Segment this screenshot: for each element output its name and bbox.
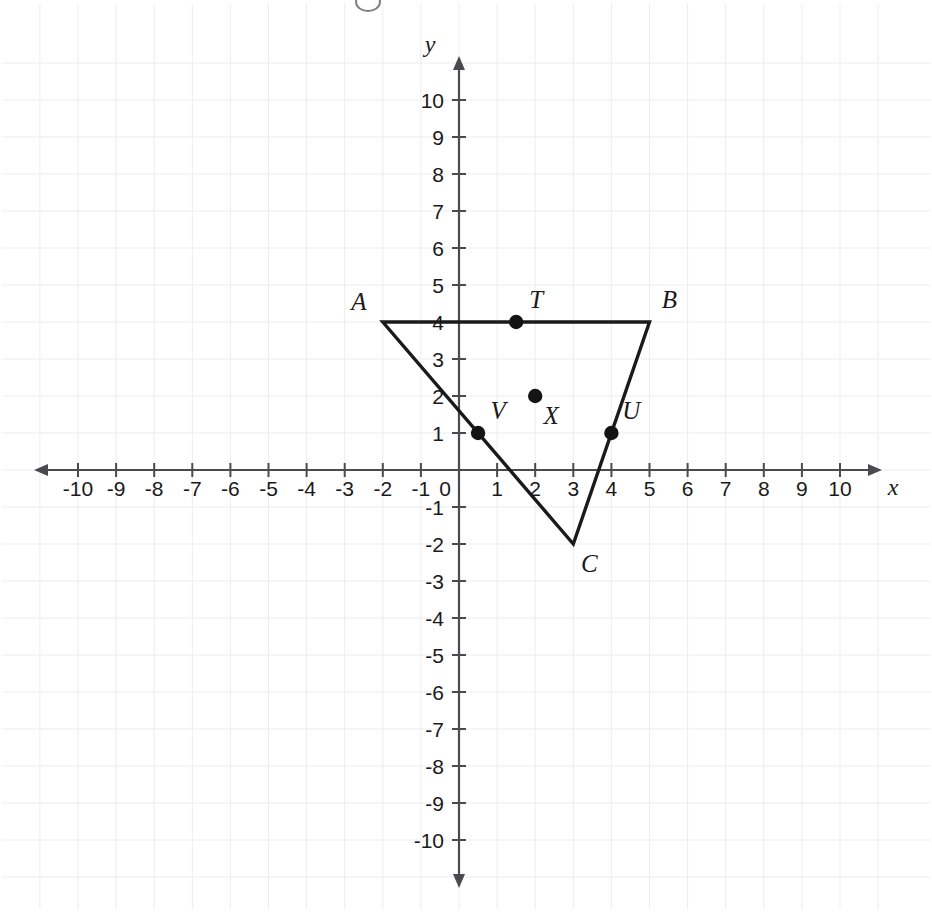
x-axis-tick-label: 7 (720, 477, 732, 500)
grid-lines (2, 4, 930, 909)
y-axis-tick-label: 3 (432, 348, 444, 371)
vertex-label-c: C (581, 550, 598, 577)
y-axis-tick-label: 8 (432, 163, 444, 186)
y-axis-down-arrow-icon (453, 874, 465, 888)
point-label-x: X (543, 402, 561, 429)
coordinate-plane-figure: -10-9-8-7-6-5-4-3-2-10123456789101234567… (0, 0, 932, 913)
y-axis-tick-label: -3 (425, 570, 444, 593)
x-axis-tick-label: 6 (682, 477, 694, 500)
x-axis-tick-label: 8 (758, 477, 770, 500)
x-axis-tick-label: 9 (796, 477, 808, 500)
y-axis-tick-label: 10 (421, 89, 444, 112)
x-axis-tick-label: -10 (63, 477, 93, 500)
y-axis-tick-label: 1 (432, 422, 444, 445)
point-label-v: V (490, 397, 508, 424)
y-axis-tick-label: -1 (425, 496, 444, 519)
y-axis-tick-label: -4 (425, 607, 444, 630)
x-axis-tick-label: 3 (567, 477, 579, 500)
y-axis-tick-label: -6 (425, 681, 444, 704)
x-axis-tick-label: -7 (183, 477, 202, 500)
y-axis-tick-label: 5 (432, 274, 444, 297)
point-label-u: U (622, 397, 642, 424)
vertex-label-a: A (349, 288, 367, 315)
coordinate-plane-canvas: -10-9-8-7-6-5-4-3-2-10123456789101234567… (0, 0, 932, 913)
plotted-labels: ABCTXVU (349, 286, 677, 577)
y-axis-tick-label: 7 (432, 200, 444, 223)
y-axis-tick-label: -5 (425, 644, 444, 667)
x-axis-name-label: x (887, 474, 899, 500)
x-axis-tick-label: -8 (145, 477, 164, 500)
plot-point-x (528, 389, 542, 403)
x-axis-tick-label: -9 (107, 477, 126, 500)
x-axis-tick-label: 1 (491, 477, 503, 500)
point-label-t: T (529, 286, 545, 313)
y-axis-tick-label: -9 (425, 792, 444, 815)
y-axis-tick-label: -8 (425, 755, 444, 778)
y-axis-tick-label: -7 (425, 718, 444, 741)
x-axis-tick-label: -5 (259, 477, 278, 500)
axes (34, 56, 882, 888)
x-axis-tick-label: -6 (221, 477, 240, 500)
x-axis-left-arrow-icon (34, 464, 48, 476)
plot-point-t (509, 315, 523, 329)
x-axis-tick-label: 10 (828, 477, 851, 500)
x-axis-tick-label: -4 (297, 477, 316, 500)
x-axis-right-arrow-icon (868, 464, 882, 476)
x-axis-tick-label: -2 (373, 477, 392, 500)
x-axis-tick-label: 4 (606, 477, 618, 500)
x-axis-tick-label: 5 (644, 477, 656, 500)
y-axis-name-label: y (423, 31, 436, 57)
y-axis-tick-label: 9 (432, 126, 444, 149)
plot-point-u (604, 426, 618, 440)
plot-point-v (471, 426, 485, 440)
y-axis-tick-label: 6 (432, 237, 444, 260)
y-axis-tick-label: -2 (425, 533, 444, 556)
y-axis-tick-label: -10 (414, 829, 444, 852)
x-axis-tick-label: -3 (335, 477, 354, 500)
vertex-label-b: B (662, 286, 677, 313)
